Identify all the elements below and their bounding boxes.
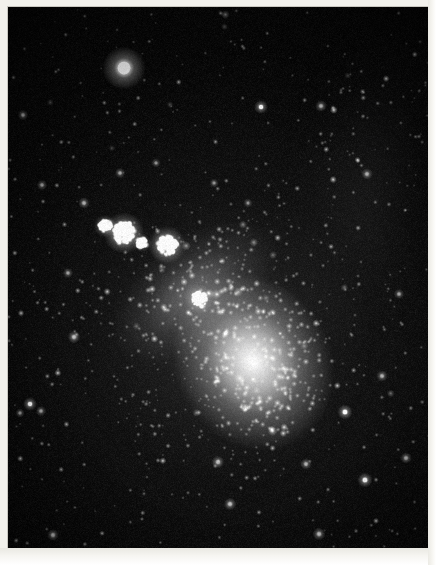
sky-field [8,7,428,548]
photographic-plate [0,0,436,565]
paper-margin-bottom [0,548,436,565]
paper-margin-right [428,0,436,565]
film-grain-layer [8,7,428,548]
